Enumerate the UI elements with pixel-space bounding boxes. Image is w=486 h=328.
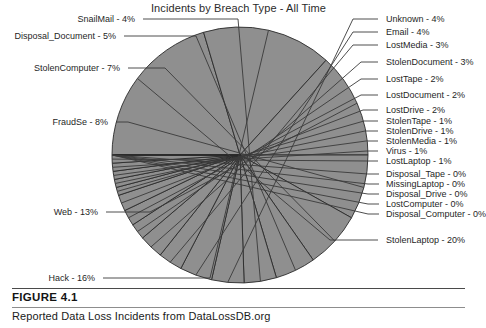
- pie-label-stolenlaptop: StolenLaptop - 20%: [386, 235, 465, 245]
- pie-label-losttape: LostTape - 2%: [386, 74, 444, 84]
- pie-label-stolencomputer: StolenComputer - 7%: [34, 63, 120, 73]
- pie-label-missinglaptop: MissingLaptop - 0%: [386, 179, 465, 189]
- pie-label-disposal-tape: Disposal_Tape - 0%: [386, 169, 466, 179]
- pie-label-lostcomputer: LostComputer - 0%: [386, 199, 464, 209]
- pie-label-unknown: Unknown - 4%: [386, 14, 445, 24]
- pie-chart-area: Incidents by Breach Type - All Time Unkn…: [0, 0, 477, 290]
- pie-label-stolenmedia: StolenMedia - 1%: [386, 136, 457, 146]
- pie-label-virus: Virus - 1%: [386, 146, 427, 156]
- figure-number: FIGURE 4.1: [12, 291, 78, 303]
- pie-label-web: Web - 13%: [54, 207, 98, 217]
- pie-label-stolendocument: StolenDocument - 3%: [386, 57, 474, 67]
- pie-label-disposal-computer: Disposal_Computer - 0%: [386, 209, 486, 219]
- caption-mid-rule: [12, 307, 465, 308]
- pie-label-lostlaptop: LostLaptop - 1%: [386, 156, 452, 166]
- pie-label-hack: Hack - 16%: [48, 273, 95, 283]
- pie-label-lostdrive: LostDrive - 2%: [386, 105, 445, 115]
- pie-label-stolentape: StolenTape - 1%: [386, 116, 452, 126]
- pie-label-lostdocument: LostDocument - 2%: [386, 90, 465, 100]
- figure-caption-block: FIGURE 4.1 Reported Data Loss Incidents …: [0, 288, 477, 328]
- pie-label-disposal-drive: Disposal_Drive - 0%: [386, 189, 468, 199]
- pie-label-snailmail: SnailMail - 4%: [77, 14, 135, 24]
- pie-label-email: Email - 4%: [386, 27, 430, 37]
- pie-label-fraudse: FraudSe - 8%: [52, 117, 108, 127]
- figure-caption-text: Reported Data Loss Incidents from DataLo…: [12, 310, 271, 322]
- caption-top-rule: [12, 288, 465, 289]
- pie-label-lostmedia: LostMedia - 3%: [386, 40, 449, 50]
- pie-slices-group: [112, 27, 368, 283]
- pie-label-disposal-document: Disposal_Document - 5%: [14, 31, 116, 41]
- pie-label-stolendrive: StolenDrive - 1%: [386, 126, 454, 136]
